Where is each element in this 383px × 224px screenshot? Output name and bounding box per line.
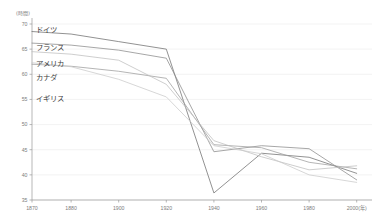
x-tick-label: 1900: [113, 205, 125, 211]
x-tick-label: 1870: [26, 205, 38, 211]
y-tick-label: 65: [22, 46, 28, 52]
x-tick-label: 1920: [161, 205, 173, 211]
y-axis-ticks: 7065605550454035: [22, 21, 32, 203]
line-chart: 7065605550454035 18701880190019201940196…: [0, 0, 383, 224]
axes: [32, 18, 372, 200]
x-tick-label: 2000(年): [347, 204, 367, 212]
series-label-1: フランス: [36, 43, 64, 52]
series-lines: [32, 32, 357, 193]
x-tick-label: 1960: [256, 205, 268, 211]
y-tick-label: 55: [22, 96, 28, 102]
series-line-1: [32, 43, 357, 180]
y-tick-label: 45: [22, 147, 28, 153]
series-label-2: アメリカ: [36, 59, 64, 68]
series-label-3: カナダ: [36, 73, 58, 82]
y-tick-label: 70: [22, 21, 28, 27]
gridlines: [32, 24, 372, 200]
series-label-0: ドイツ: [36, 25, 57, 34]
series-line-2: [32, 64, 357, 169]
y-tick-label: 35: [22, 197, 28, 203]
series-label-4: イギリス: [36, 94, 64, 103]
y-tick-label: 60: [22, 71, 28, 77]
y-tick-label: 40: [22, 172, 28, 178]
y-axis-unit-label: (時間): [16, 10, 30, 17]
x-tick-label: 1940: [208, 205, 220, 211]
y-tick-label: 50: [22, 121, 28, 127]
chart-canvas: 7065605550454035 18701880190019201940196…: [0, 0, 383, 224]
series-line-4: [32, 63, 357, 183]
x-tick-label: 1980: [303, 205, 315, 211]
x-tick-label: 1880: [65, 205, 77, 211]
series-labels: ドイツフランスアメリカカナダイギリス: [36, 25, 64, 103]
x-axis-ticks: 18701880190019201940196019802000(年): [26, 200, 367, 212]
